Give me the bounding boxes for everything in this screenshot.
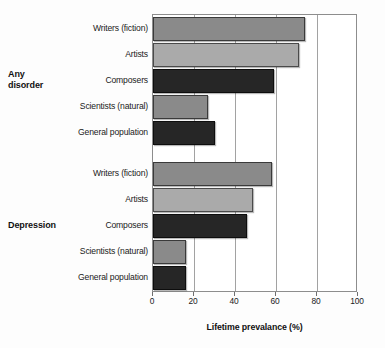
bar: [153, 43, 299, 67]
bar: [153, 188, 253, 212]
category-label: Writers (fiction): [32, 23, 148, 33]
category-label: Scientists (natural): [32, 246, 148, 256]
gridline: [317, 15, 318, 291]
category-label: General population: [32, 272, 148, 282]
x-tick-label: 60: [263, 296, 287, 306]
category-label: Composers: [32, 75, 148, 85]
x-tick-label: 0: [140, 296, 164, 306]
bar-chart-figure: Anydisorder Depression Writers (fiction)…: [0, 0, 385, 348]
x-tick-label: 80: [304, 296, 328, 306]
bar: [153, 95, 208, 119]
x-tick-label: 20: [181, 296, 205, 306]
bar: [153, 162, 272, 186]
bar: [153, 121, 215, 145]
category-label: Artists: [32, 49, 148, 59]
x-tick-label: 40: [222, 296, 246, 306]
category-label: Scientists (natural): [32, 101, 148, 111]
bar: [153, 69, 274, 93]
bar: [153, 240, 186, 264]
category-label: Composers: [32, 220, 148, 230]
category-label: Artists: [32, 194, 148, 204]
bar: [153, 214, 247, 238]
bar: [153, 266, 186, 290]
category-label: General population: [32, 127, 148, 137]
category-label: Writers (fiction): [32, 168, 148, 178]
x-axis-title: Lifetime prevalance (%): [152, 322, 357, 332]
bar: [153, 17, 305, 41]
plot-area: [152, 14, 357, 292]
category-axis-labels: Writers (fiction)ArtistsComposersScienti…: [28, 0, 148, 348]
x-tick-label: 100: [345, 296, 369, 306]
